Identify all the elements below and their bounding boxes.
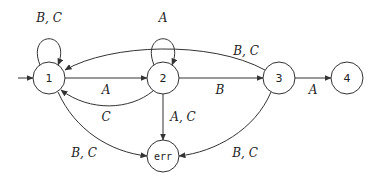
automaton-diagram: 1 2 3 4 err B, C A A C B, C B A A, C B, … xyxy=(0,0,378,184)
edge-3-err-label: B, C xyxy=(232,146,258,160)
state-err-label: err xyxy=(154,151,172,162)
edge-3-1-label: B, C xyxy=(233,44,259,58)
diagram-canvas xyxy=(0,0,378,184)
edge-2-3-label: B xyxy=(216,83,225,97)
edge-1-1 xyxy=(37,39,60,65)
state-2-label: 2 xyxy=(160,72,167,85)
state-1-label: 1 xyxy=(46,72,53,85)
edge-2-err-label: A, C xyxy=(170,110,195,124)
state-3-label: 3 xyxy=(276,72,283,85)
edge-2-2-label: A xyxy=(159,11,168,25)
edge-2-1-label: C xyxy=(101,110,110,124)
edge-1-1-label: B, C xyxy=(36,11,62,25)
state-4-label: 4 xyxy=(344,72,351,85)
edge-1-err-label: B, C xyxy=(71,146,97,160)
edge-1-2-label: A xyxy=(102,83,111,97)
edge-2-2 xyxy=(151,39,174,65)
edge-3-4-label: A xyxy=(309,83,318,97)
